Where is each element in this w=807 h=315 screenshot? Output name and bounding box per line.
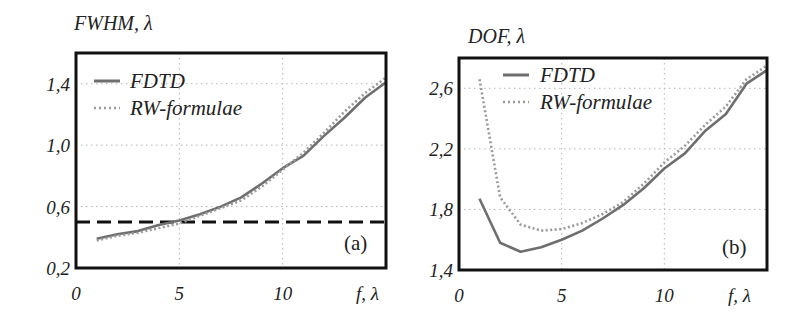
legend-label-rw: RW-formulae: [129, 96, 242, 120]
x-axis-title: f, λ: [728, 285, 751, 306]
y-tick-label: 2,6: [429, 78, 453, 99]
y-axis-title: FWHM, λ: [73, 12, 153, 34]
x-tick-label: 0: [71, 283, 81, 304]
gridlines: [76, 53, 386, 268]
x-axis-title: f, λ: [356, 283, 379, 304]
y-tick-label: 1,4: [46, 74, 70, 95]
legend-label-rw: RW-formulae: [539, 90, 652, 114]
legend-label-fdtd: FDTD: [129, 69, 185, 93]
y-tick-labels: 0,20,61,01,4: [46, 74, 70, 279]
panel-label: (a): [344, 231, 367, 255]
y-tick-label: 1,4: [429, 260, 453, 281]
panel-label: (b): [722, 235, 747, 259]
y-tick-label: 1,0: [46, 135, 70, 156]
plot-frame: [76, 53, 386, 268]
chart-panel-fwhm: FWHM, λ 0,20,61,01,4 0510 f, λ (a) FDTD …: [46, 12, 386, 304]
y-tick-labels: 1,41,82,22,6: [429, 78, 453, 281]
legend: FDTD RW-formulae: [94, 69, 242, 120]
figure: FWHM, λ 0,20,61,01,4 0510 f, λ (a) FDTD …: [0, 0, 807, 315]
x-tick-label: 5: [557, 285, 567, 306]
x-tick-label: 10: [273, 283, 293, 304]
chart-panel-dof: DOF, λ 1,41,82,22,6 0510 f, λ (b) FDTD R…: [429, 25, 767, 306]
y-tick-label: 0,2: [46, 258, 70, 279]
x-tick-label: 5: [175, 283, 185, 304]
y-tick-label: 1,8: [429, 199, 453, 220]
x-tick-label: 10: [655, 285, 675, 306]
x-tick-labels: 0510: [71, 283, 292, 304]
y-axis-title: DOF, λ: [467, 25, 526, 47]
y-tick-label: 2,2: [429, 139, 453, 160]
x-tick-labels: 0510: [454, 285, 674, 306]
legend-label-fdtd: FDTD: [539, 63, 595, 87]
y-tick-label: 0,6: [46, 197, 70, 218]
x-tick-label: 0: [454, 285, 464, 306]
